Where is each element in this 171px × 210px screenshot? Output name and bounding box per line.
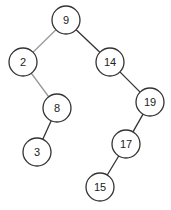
tree-node-2: 2 [9, 48, 37, 76]
tree-diagram: 921481931715 [0, 0, 171, 210]
edge-14-19 [120, 72, 140, 92]
edge-19-17 [133, 114, 143, 132]
tree-node-15: 15 [86, 173, 114, 201]
edge-8-3 [43, 121, 51, 140]
node-label: 17 [120, 138, 132, 150]
tree-node-8: 8 [43, 94, 71, 122]
edge-2-8 [31, 73, 48, 96]
tree-nodes: 921481931715 [9, 6, 164, 201]
node-label: 14 [104, 56, 116, 68]
node-label: 19 [144, 96, 156, 108]
tree-node-9: 9 [52, 6, 80, 34]
node-label: 3 [34, 146, 40, 158]
edge-17-15 [107, 156, 119, 175]
edge-9-14 [76, 30, 100, 53]
node-label: 15 [94, 181, 106, 193]
node-label: 2 [20, 56, 26, 68]
tree-node-17: 17 [112, 130, 140, 158]
node-label: 9 [63, 14, 69, 26]
node-label: 8 [54, 102, 60, 114]
tree-node-14: 14 [96, 48, 124, 76]
edge-9-2 [33, 30, 56, 52]
tree-node-19: 19 [136, 88, 164, 116]
tree-node-3: 3 [23, 138, 51, 166]
